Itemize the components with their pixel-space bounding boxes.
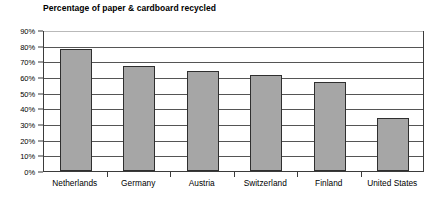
- x-axis-tick-label: Netherlands: [52, 178, 97, 188]
- y-axis-tick-label: 90%: [20, 27, 35, 36]
- bar-chart-figure: Percentage of paper & cardboard recycled…: [0, 0, 447, 203]
- bar: [123, 66, 155, 171]
- bar: [187, 71, 219, 171]
- y-axis-tick-label: 40%: [20, 105, 35, 114]
- x-axis-ticks: [43, 172, 424, 177]
- y-axis-tick-label: 30%: [20, 121, 35, 130]
- x-axis: NetherlandsGermanyAustriaSwitzerlandFinl…: [43, 178, 424, 194]
- x-axis-tick-label: Austria: [189, 178, 215, 188]
- plot-area: [43, 31, 424, 172]
- chart-title: Percentage of paper & cardboard recycled: [43, 3, 216, 13]
- y-axis-tick-label: 80%: [20, 42, 35, 51]
- y-axis-tick-label: 10%: [20, 152, 35, 161]
- y-axis-tick-label: 70%: [20, 58, 35, 67]
- y-axis-tick-label: 20%: [20, 136, 35, 145]
- x-axis-tick-mark: [361, 172, 362, 177]
- bar: [314, 82, 346, 171]
- bars-layer: [44, 31, 423, 171]
- x-axis-tick-mark: [297, 172, 298, 177]
- bar: [377, 118, 409, 171]
- bar: [60, 49, 92, 171]
- y-axis-tick-label: 60%: [20, 74, 35, 83]
- x-axis-tick-label: Germany: [121, 178, 155, 188]
- x-axis-tick-mark: [107, 172, 108, 177]
- x-axis-tick-mark: [234, 172, 235, 177]
- x-axis-tick-label: Switzerland: [244, 178, 287, 188]
- y-axis: 0%10%20%30%40%50%60%70%80%90%: [0, 31, 43, 172]
- x-axis-tick-label: United States: [367, 178, 417, 188]
- y-axis-tick-label: 0%: [24, 168, 35, 177]
- bar: [250, 75, 282, 171]
- y-axis-tick-label: 50%: [20, 89, 35, 98]
- x-axis-tick-mark: [170, 172, 171, 177]
- x-axis-tick-label: Finland: [315, 178, 342, 188]
